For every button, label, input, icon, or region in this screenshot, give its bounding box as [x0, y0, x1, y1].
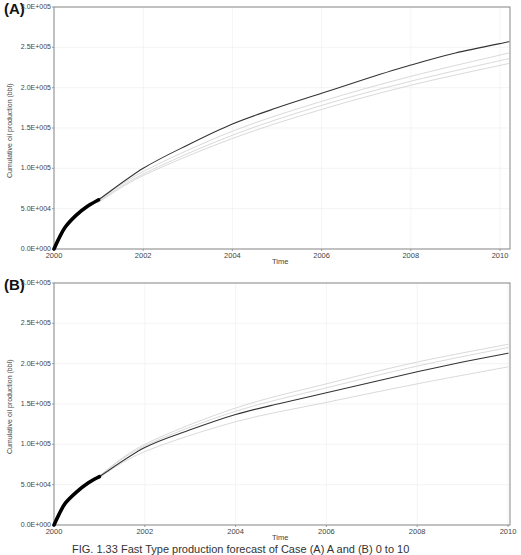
forecast-line: [99, 42, 509, 200]
x-axis-label-b: Time: [272, 533, 288, 542]
y-tick-label: 3.0E+005: [0, 279, 51, 286]
y-tick-label: 2.5E+005: [0, 43, 51, 50]
y-tick-label: 3.0E+005: [0, 3, 51, 10]
x-tick-label: 2008: [402, 527, 432, 536]
x-tick-label: 2006: [311, 527, 341, 536]
x-axis-label-a: Time: [272, 257, 288, 266]
history-line: [54, 477, 99, 525]
ensemble-line: [99, 63, 509, 202]
ensemble-line: [99, 348, 508, 476]
y-tick-label: 5.0E+004: [0, 481, 51, 488]
x-tick-label: 2008: [396, 251, 426, 260]
chart-plot-b: [0, 276, 512, 538]
chart-panel-a: (A) Cumulative oil production (bbl) Time…: [0, 0, 512, 268]
chart-panel-b: (B) Cumulative oil production (bbl) Time…: [0, 276, 512, 538]
ensemble-line: [99, 59, 509, 202]
y-tick-label: 1.5E+005: [0, 400, 51, 407]
ensemble-line: [99, 344, 508, 475]
y-tick-label: 1.0E+005: [0, 440, 51, 447]
x-tick-label: 2000: [39, 251, 69, 260]
x-tick-label: 2004: [217, 251, 247, 260]
y-tick-label: 2.5E+005: [0, 319, 51, 326]
chart-plot-a: [0, 0, 512, 268]
figure-caption: FIG. 1.33 Fast Type production forecast …: [72, 543, 409, 555]
y-tick-label: 2.0E+005: [0, 84, 51, 91]
x-tick-label: 2002: [130, 527, 160, 536]
ensemble-line: [99, 53, 509, 201]
x-tick-label: 2000: [39, 527, 69, 536]
x-tick-label: 2010: [485, 251, 515, 260]
y-tick-label: 2.0E+005: [0, 360, 51, 367]
x-tick-label: 2010: [493, 527, 521, 536]
history-line: [54, 200, 99, 249]
y-tick-label: 1.0E+005: [0, 164, 51, 171]
y-tick-label: 5.0E+004: [0, 205, 51, 212]
y-tick-label: 1.5E+005: [0, 124, 51, 131]
ensemble-line: [99, 367, 508, 478]
x-tick-label: 2006: [307, 251, 337, 260]
x-tick-label: 2004: [221, 527, 251, 536]
x-tick-label: 2002: [128, 251, 158, 260]
forecast-line: [99, 353, 508, 476]
